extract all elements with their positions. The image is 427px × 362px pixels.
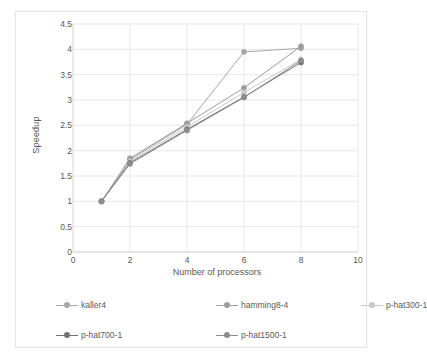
- x-tick-label: 0: [71, 256, 76, 265]
- data-point-hamming8-4: [298, 44, 303, 49]
- legend-label: p-hat700-1: [81, 330, 122, 340]
- legend-swatch-icon: [216, 330, 238, 340]
- legend-label: p-hat300-1: [386, 300, 427, 310]
- legend-item-kaller4[interactable]: kaller4: [56, 298, 106, 312]
- x-tick-label: 8: [299, 256, 304, 265]
- plot-svg: [16, 12, 368, 262]
- x-tick-label: 10: [353, 256, 362, 265]
- series-line-p-hat1500-1: [102, 60, 302, 201]
- x-axis-title: Number of processors: [72, 267, 362, 277]
- legend-label: p-hat1500-1: [241, 330, 287, 340]
- x-tick-label: 4: [185, 256, 190, 265]
- chart-legend: kaller4hamming8-4p-hat300-1p-hat700-1p-h…: [16, 284, 368, 346]
- gridlines: [73, 24, 358, 252]
- data-point-p-hat1500-1: [241, 95, 246, 100]
- legend-swatch-icon: [56, 300, 78, 310]
- series-lines: [102, 46, 302, 201]
- legend-item-hamming8-4[interactable]: hamming8-4: [216, 298, 288, 312]
- legend-item-p-hat300-1[interactable]: p-hat300-1: [361, 298, 427, 312]
- series-line-p-hat700-1: [102, 63, 302, 202]
- x-tick-label: 2: [128, 256, 133, 265]
- data-point-kaller4: [241, 49, 246, 54]
- legend-label: hamming8-4: [241, 300, 288, 310]
- series-line-hamming8-4: [102, 46, 302, 201]
- axis-lines: [73, 24, 358, 252]
- data-point-p-hat1500-1: [99, 199, 104, 204]
- chart-container: Speedup 00.511.522.533.544.5 0246810 Num…: [15, 11, 367, 348]
- plot-area: Speedup 00.511.522.533.544.5 0246810 Num…: [16, 12, 368, 292]
- x-tick-label: 6: [242, 256, 247, 265]
- legend-item-p-hat1500-1[interactable]: p-hat1500-1: [216, 328, 287, 342]
- legend-item-p-hat700-1[interactable]: p-hat700-1: [56, 328, 122, 342]
- legend-swatch-icon: [56, 330, 78, 340]
- series-line-kaller4: [102, 48, 302, 201]
- legend-swatch-icon: [361, 300, 383, 310]
- data-point-p-hat1500-1: [184, 128, 189, 133]
- data-point-p-hat1500-1: [127, 161, 132, 166]
- data-point-p-hat1500-1: [298, 58, 303, 63]
- legend-label: kaller4: [81, 300, 106, 310]
- legend-swatch-icon: [216, 300, 238, 310]
